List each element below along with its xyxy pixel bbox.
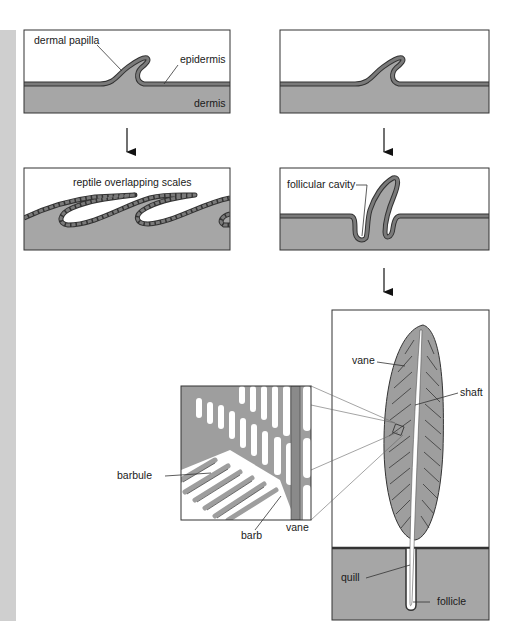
label-reptile-overlapping-scales: reptile overlapping scales: [73, 176, 191, 188]
label-quill: quill: [341, 571, 360, 583]
label-follicle: follicle: [437, 595, 466, 607]
panel-2-skin-papilla: [280, 30, 489, 113]
panel-4-follicle-formation: follicular cavity: [280, 168, 489, 250]
feather-evolution-diagram: dermal papilla epidermis dermis reptile …: [0, 0, 513, 641]
label-shaft: shaft: [460, 386, 483, 398]
label-dermal-papilla: dermal papilla: [34, 34, 100, 46]
label-dermis: dermis: [194, 97, 226, 109]
panel-1-skin-papilla: dermal papilla epidermis dermis: [24, 30, 230, 113]
label-barb: barb: [241, 529, 262, 541]
label-barbule: barbule: [117, 469, 152, 481]
label-vane: vane: [352, 354, 375, 366]
panel-3-reptile-scales: reptile overlapping scales: [24, 168, 230, 250]
panel-5-feather-in-follicle: vane shaft quill follicle: [332, 310, 489, 620]
label-epidermis: epidermis: [180, 53, 226, 65]
label-follicular-cavity: follicular cavity: [287, 178, 356, 190]
label-inset-vane: vane: [286, 521, 309, 533]
